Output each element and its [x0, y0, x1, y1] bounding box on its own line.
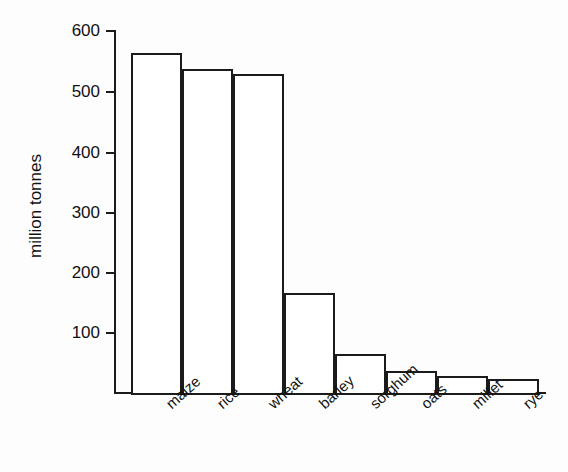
bar-wheat: [233, 74, 284, 395]
bar-maize: [131, 53, 182, 395]
y-axis-line: [114, 30, 116, 394]
plot-area: million tonnes 600 500 400 300 200 100 m…: [0, 0, 568, 472]
y-tick-label-200: 200: [44, 264, 100, 281]
x-label-wheat: wheat: [265, 400, 275, 411]
y-tick-label-300: 300: [44, 204, 100, 221]
y-axis-title: million tonnes: [26, 126, 46, 286]
bar-rice: [182, 69, 233, 395]
x-label-millet: millet: [469, 400, 479, 411]
y-tick-300: [106, 212, 114, 214]
x-label-oats: oats: [418, 400, 428, 411]
y-tick-600: [106, 30, 114, 32]
y-tick-label-100: 100: [44, 324, 100, 341]
y-tick-200: [106, 272, 114, 274]
y-tick-label-400: 400: [44, 144, 100, 161]
x-label-maize: maize: [163, 400, 173, 411]
x-label-barley: barley: [316, 400, 326, 411]
y-tick-100: [106, 332, 114, 334]
y-tick-label-500: 500: [44, 83, 100, 100]
x-label-sorghum: sorghum: [367, 400, 377, 411]
y-tick-500: [106, 91, 114, 93]
bar-chart: million tonnes 600 500 400 300 200 100 m…: [0, 0, 568, 472]
y-tick-label-600: 600: [44, 22, 100, 39]
x-label-rice: rice: [214, 400, 224, 411]
y-tick-400: [106, 152, 114, 154]
x-label-rye: rye: [520, 400, 530, 411]
